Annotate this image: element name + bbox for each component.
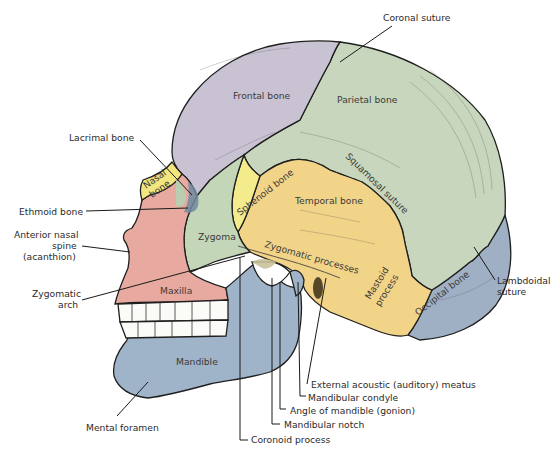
- callout-zygomatic-arch-2: arch: [58, 299, 78, 310]
- lower-teeth: [120, 320, 228, 338]
- callout-mental-foramen: Mental foramen: [86, 422, 159, 433]
- callout-coronal-suture: Coronal suture: [383, 12, 451, 23]
- callout-mandibular-condyle: Mandibular condyle: [308, 392, 399, 403]
- callout-mandibular-notch: Mandibular notch: [284, 419, 364, 430]
- callout-angle-of-mandible: Angle of mandible (gonion): [290, 405, 415, 416]
- callout-ethmoid-bone: Ethmoid bone: [19, 206, 83, 217]
- upper-teeth: [118, 300, 228, 322]
- callout-anterior-nasal-spine-3: (acanthion): [23, 251, 76, 262]
- label-frontal-bone: Frontal bone: [233, 90, 291, 101]
- callout-anterior-nasal-spine-1: Anterior nasal: [14, 229, 78, 240]
- callout-zygomatic-arch-1: Zygomatic: [32, 288, 81, 299]
- callout-lambdoidal-suture-1: Lambdoidal: [497, 275, 551, 286]
- callout-external-acoustic-meatus: External acoustic (auditory) meatus: [311, 379, 476, 390]
- callout-lambdoidal-suture-2: suture: [497, 286, 527, 297]
- label-maxilla: Maxilla: [160, 285, 192, 296]
- callout-anterior-nasal-spine-2: spine: [52, 240, 77, 251]
- callout-coronoid-process: Coronoid process: [251, 434, 330, 445]
- skull-diagram: Frontal bone Parietal bone Temporal bone…: [0, 0, 555, 460]
- callout-lacrimal-bone: Lacrimal bone: [69, 132, 134, 143]
- label-zygoma: Zygoma: [198, 231, 236, 242]
- label-mandible: Mandible: [176, 356, 218, 367]
- ear-canal: [313, 277, 323, 299]
- label-temporal-bone: Temporal bone: [294, 195, 363, 206]
- label-parietal-bone: Parietal bone: [337, 94, 398, 105]
- skull-illustration: Frontal bone Parietal bone Temporal bone…: [0, 0, 555, 460]
